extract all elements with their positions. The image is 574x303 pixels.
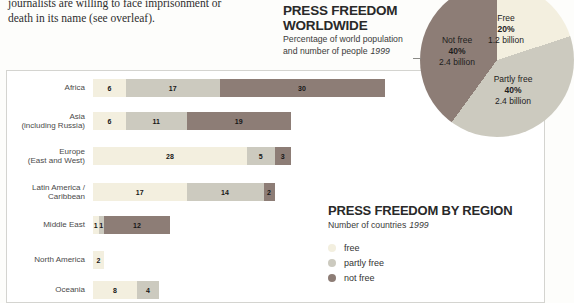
region-subtitle: Number of countries1999 bbox=[328, 220, 512, 230]
intro-text: journalists are willing to face imprison… bbox=[8, 0, 264, 26]
pie-label-free-name: Free bbox=[475, 13, 537, 24]
bar-value: 28 bbox=[166, 153, 174, 160]
pie-label-partly-free-percent: 40% bbox=[482, 85, 544, 96]
not-free-dot-icon bbox=[328, 274, 336, 282]
pie-label-partly-free-people: 2.4 billion bbox=[482, 96, 544, 107]
bar-value: 4 bbox=[146, 287, 150, 294]
legend-label: free bbox=[344, 243, 360, 253]
bar-segment-not-free: 2 bbox=[264, 183, 275, 201]
pie-label-free-percent: 20% bbox=[475, 24, 537, 35]
bar-segment-not-free: 19 bbox=[187, 112, 292, 130]
bar-value: 12 bbox=[133, 222, 141, 229]
bar-row-label: Oceania bbox=[7, 281, 85, 299]
bar-row-label: Africa bbox=[7, 79, 85, 97]
bar-value: 6 bbox=[108, 85, 112, 92]
bar-segment-not-free: 12 bbox=[104, 216, 170, 234]
bar-value: 2 bbox=[97, 257, 101, 264]
worldwide-title: PRESS FREEDOM WORLDWIDE bbox=[283, 3, 397, 33]
bar-segment-free: 6 bbox=[93, 112, 126, 130]
bar-segment-partly-free: 4 bbox=[137, 281, 159, 299]
intro-line-2: death in its name (see overleaf). bbox=[8, 11, 264, 26]
pie-label-not-free-percent: 40% bbox=[427, 46, 487, 57]
legend-label: not free bbox=[344, 273, 375, 283]
bar-segment-free: 17 bbox=[93, 183, 187, 201]
legend-item-partly-free: partly free bbox=[328, 258, 512, 268]
bar-value: 17 bbox=[169, 85, 177, 92]
bar-value: 30 bbox=[298, 85, 306, 92]
worldwide-title-line-1: PRESS FREEDOM bbox=[283, 3, 397, 18]
bar-row: Europe (East and West)2853 bbox=[7, 147, 544, 165]
bar-value: 5 bbox=[259, 153, 263, 160]
legend-label: partly free bbox=[344, 258, 384, 268]
region-subtitle-text: Number of countries bbox=[328, 220, 406, 230]
bar-value: 3 bbox=[281, 153, 285, 160]
bar-value: 17 bbox=[136, 189, 144, 196]
bar-value: 6 bbox=[108, 118, 112, 125]
bar-row-label: Middle East bbox=[7, 216, 85, 234]
region-subtitle-year: 1999 bbox=[409, 220, 428, 230]
bar-segment-free: 6 bbox=[93, 79, 126, 97]
bar-value: 2 bbox=[267, 189, 271, 196]
bar-segment-free: 28 bbox=[93, 147, 247, 165]
bar-value: 1 bbox=[94, 222, 98, 229]
bar-row-label: Asia (including Russia) bbox=[7, 112, 85, 130]
bar-segment-free: 2 bbox=[93, 251, 104, 269]
bar-value: 8 bbox=[113, 287, 117, 294]
bar-row-label: Europe (East and West) bbox=[7, 147, 85, 165]
free-dot-icon bbox=[328, 244, 336, 252]
bar-segment-partly-free: 5 bbox=[247, 147, 275, 165]
worldwide-subtitle-text: and number of people bbox=[283, 46, 368, 56]
bar-value: 14 bbox=[221, 189, 229, 196]
worldwide-subtitle-line-2: and number of people1999 bbox=[283, 46, 403, 58]
pie-label-not-free-people: 2.4 billion bbox=[427, 57, 487, 68]
worldwide-subtitle: Percentage of world population and numbe… bbox=[283, 34, 403, 57]
worldwide-subtitle-year: 1999 bbox=[371, 46, 390, 56]
pie-label-partly-free-name: Partly free bbox=[482, 74, 544, 85]
legend-item-free: free bbox=[328, 243, 512, 253]
region-legend-block: PRESS FREEDOM BY REGION Number of countr… bbox=[328, 203, 512, 288]
legend-item-not-free: not free bbox=[328, 273, 512, 283]
bar-value: 11 bbox=[153, 118, 160, 125]
pie-tick-line bbox=[413, 58, 421, 59]
worldwide-subtitle-line-1: Percentage of world population bbox=[283, 34, 403, 46]
bar-segment-partly-free: 17 bbox=[126, 79, 220, 97]
bar-segment-free: 8 bbox=[93, 281, 137, 299]
bar-row-label: Latin America / Caribbean bbox=[7, 183, 85, 201]
pie-label-partly-free: Partly free 40% 2.4 billion bbox=[482, 74, 544, 107]
bar-segment-partly-free: 11 bbox=[126, 112, 187, 130]
bar-value: 1 bbox=[99, 222, 103, 229]
bar-row-label: North America bbox=[7, 251, 85, 269]
bar-segment-partly-free: 14 bbox=[187, 183, 264, 201]
bar-value: 19 bbox=[235, 118, 243, 125]
bar-row: Latin America / Caribbean17142 bbox=[7, 183, 544, 201]
pie-label-not-free-name: Not free bbox=[427, 35, 487, 46]
bar-segment-not-free: 3 bbox=[275, 147, 292, 165]
intro-line-1: journalists are willing to face imprison… bbox=[8, 0, 264, 11]
worldwide-title-line-2: WORLDWIDE bbox=[283, 18, 397, 33]
bar-segment-not-free: 30 bbox=[220, 79, 385, 97]
legend: freepartly freenot free bbox=[328, 243, 512, 283]
partly-free-dot-icon bbox=[328, 259, 336, 267]
pie-label-not-free: Not free 40% 2.4 billion bbox=[427, 35, 487, 68]
region-title: PRESS FREEDOM BY REGION bbox=[328, 203, 512, 218]
